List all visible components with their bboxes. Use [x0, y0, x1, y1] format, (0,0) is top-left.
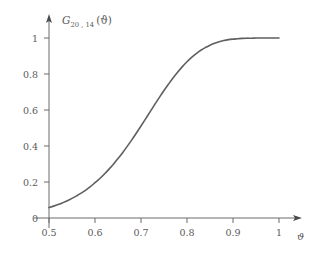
x-axis-ticks: [49, 218, 279, 223]
y-tick-label: 0.6: [23, 105, 38, 116]
y-tick-label-zero: 0: [32, 213, 38, 224]
x-axis-label: ϑ: [297, 231, 304, 242]
y-tick-label: 0.8: [23, 69, 38, 80]
chart-title: G20 , 14(ϑ): [62, 14, 112, 29]
title-subscript: 20 , 14: [70, 21, 94, 29]
y-axis-tick-labels: 1 0.8 0.6 0.4 0.2 0: [23, 33, 38, 224]
title-symbol: G: [62, 14, 70, 26]
title-argument: (ϑ): [96, 14, 112, 26]
x-tick-label: 0.5: [41, 227, 56, 238]
data-series-line: [49, 38, 279, 208]
y-axis-ticks: [44, 38, 49, 182]
y-tick-label: 0.4: [23, 141, 38, 152]
x-axis: [34, 215, 302, 221]
x-tick-label: 0.7: [133, 227, 148, 238]
x-tick-label: 0.9: [225, 227, 240, 238]
x-tick-label: 0.6: [87, 227, 102, 238]
svg-text:G20 , 14(ϑ): G20 , 14(ϑ): [62, 14, 112, 29]
y-axis: [46, 14, 52, 228]
x-axis-tick-labels: 0.5 0.6 0.7 0.8 0.9 1: [41, 227, 282, 238]
x-tick-label: 0.8: [179, 227, 194, 238]
x-tick-label: 1: [276, 227, 282, 238]
y-tick-label: 0.2: [23, 177, 38, 188]
y-tick-label: 1: [32, 33, 38, 44]
chart-canvas: 1 0.8 0.6 0.4 0.2 0 0.5 0.6 0.7 0.8 0.9 …: [0, 0, 319, 261]
figure-container: 1 0.8 0.6 0.4 0.2 0 0.5 0.6 0.7 0.8 0.9 …: [0, 0, 319, 261]
